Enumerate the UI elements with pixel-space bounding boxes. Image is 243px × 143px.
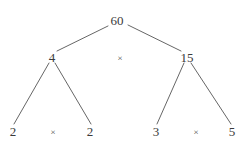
tree-node-leaf-2: 2 <box>87 125 94 138</box>
tree-edge-left-to-leaf-1 <box>14 63 49 124</box>
tree-edge-right-to-leaf-3 <box>157 63 184 124</box>
tree-edge-root-to-right <box>128 25 181 51</box>
factor-tree-diagram: 604152235××× <box>0 0 243 143</box>
tree-node-right: 15 <box>181 51 194 64</box>
tree-node-leaf-3: 3 <box>153 125 160 138</box>
tree-edge-left-to-leaf-2 <box>55 63 91 124</box>
tree-node-root: 60 <box>111 14 124 27</box>
multiplication-sign-op-top: × <box>117 54 122 63</box>
tree-node-leaf-4: 5 <box>229 125 236 138</box>
multiplication-sign-op-left: × <box>50 128 55 137</box>
tree-node-left: 4 <box>49 51 56 64</box>
tree-edge-right-to-leaf-4 <box>191 63 231 124</box>
tree-edge-root-to-left <box>57 26 108 51</box>
tree-node-leaf-1: 2 <box>10 125 17 138</box>
multiplication-sign-op-right: × <box>193 128 198 137</box>
